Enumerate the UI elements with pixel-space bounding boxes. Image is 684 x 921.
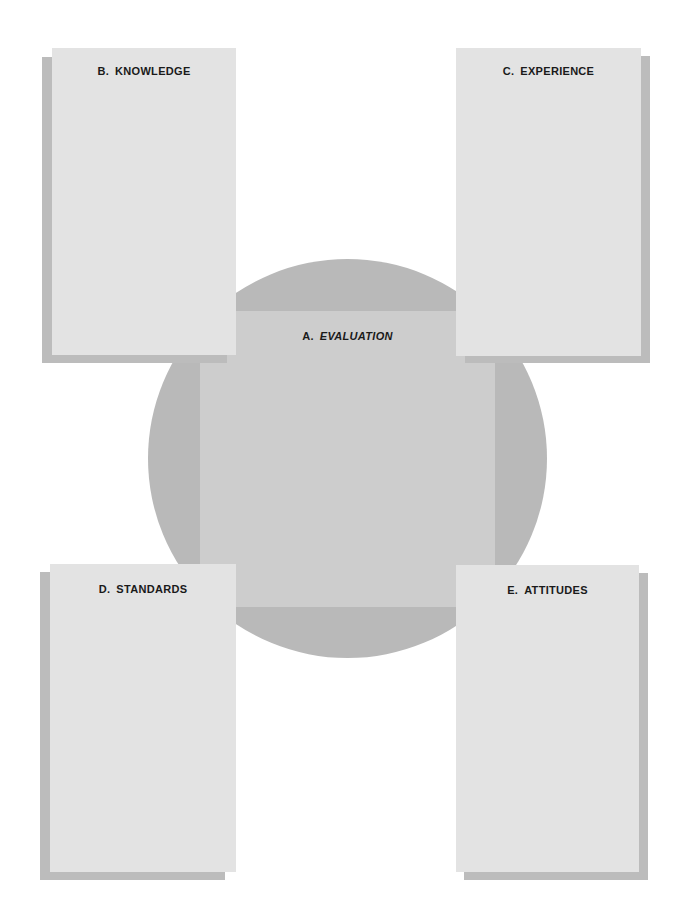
- experience-label: C.EXPERIENCE: [456, 65, 641, 77]
- evaluation-letter: A.: [302, 330, 314, 342]
- experience-box: C.EXPERIENCE: [456, 48, 641, 356]
- standards-label: D.STANDARDS: [50, 583, 236, 595]
- knowledge-label: B.KNOWLEDGE: [52, 65, 236, 77]
- attitudes-letter: E.: [507, 584, 518, 596]
- standards-letter: D.: [99, 583, 111, 595]
- knowledge-letter: B.: [97, 65, 109, 77]
- knowledge-box: B.KNOWLEDGE: [52, 48, 236, 355]
- knowledge-title: KNOWLEDGE: [115, 65, 190, 77]
- standards-title: STANDARDS: [116, 583, 187, 595]
- evaluation-label: A.EVALUATION: [200, 330, 495, 342]
- attitudes-box: E.ATTITUDES: [456, 565, 639, 872]
- attitudes-title: ATTITUDES: [524, 584, 588, 596]
- experience-title: EXPERIENCE: [520, 65, 594, 77]
- standards-box: D.STANDARDS: [50, 564, 236, 872]
- attitudes-label: E.ATTITUDES: [456, 584, 639, 596]
- experience-letter: C.: [503, 65, 515, 77]
- evaluation-square: A.EVALUATION: [200, 311, 495, 607]
- evaluation-title: EVALUATION: [320, 330, 393, 342]
